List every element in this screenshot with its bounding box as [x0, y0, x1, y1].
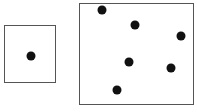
- dot: [125, 58, 134, 67]
- large-box: [79, 3, 194, 105]
- dot: [167, 64, 176, 73]
- dot: [98, 6, 107, 15]
- dot: [131, 21, 140, 30]
- dot: [27, 52, 36, 61]
- dot: [113, 86, 122, 95]
- dot: [177, 32, 186, 41]
